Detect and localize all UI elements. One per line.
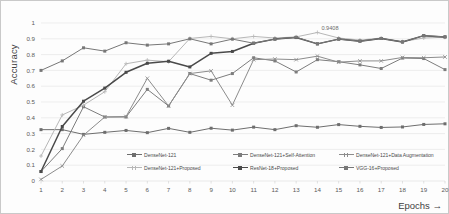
x-tick-label: 18 (399, 186, 406, 193)
x-tick-label: 12 (271, 186, 278, 193)
y-tick-label: 0.7 (26, 67, 35, 74)
y-tick-label: 1 (32, 19, 36, 26)
y-tick-label: 0.4 (26, 114, 35, 121)
x-tick-label: 8 (188, 186, 192, 193)
x-tick-label: 9 (209, 186, 213, 193)
x-tick-label: 10 (229, 186, 236, 193)
legend-item-label: VGG-16+Proposed (356, 165, 399, 171)
legend-item[interactable]: ResNet-18+Proposed (233, 164, 337, 171)
data-label: 0.9408 (321, 25, 338, 31)
y-tick-label: 0.5 (26, 98, 35, 105)
legend-marker-icon (127, 164, 142, 171)
legend-item[interactable]: DenseNet-121+Self-Attention (233, 151, 337, 158)
legend-marker-icon (339, 164, 354, 171)
x-tick-label: 15 (335, 186, 342, 193)
x-tick-label: 4 (103, 186, 107, 193)
legend-marker-icon (233, 151, 248, 158)
x-axis-tick-labels: 1234567891011121314151617181920 (39, 186, 449, 193)
x-tick-label: 5 (124, 186, 128, 193)
legend-item-label: DenseNet-121 (144, 152, 176, 158)
legend-marker-icon (127, 151, 142, 158)
x-tick-label: 20 (442, 186, 449, 193)
legend-marker-icon (339, 151, 354, 158)
x-tick-label: 16 (357, 186, 364, 193)
x-axis-title: Epochs → (398, 200, 442, 211)
y-tick-label: 0.2 (26, 146, 35, 153)
legend-item[interactable]: VGG-16+Proposed (339, 164, 443, 171)
x-tick-label: 1 (39, 186, 43, 193)
y-tick-label: 0 (32, 177, 36, 184)
accuracy-vs-epochs-line-chart: 00.10.20.30.40.50.60.70.80.91 1234567891… (0, 0, 449, 214)
x-tick-label: 13 (293, 186, 300, 193)
y-tick-label: 0.9 (26, 35, 35, 42)
y-tick-label: 0.3 (26, 130, 35, 137)
y-tick-label: 0.8 (26, 51, 35, 58)
legend-item[interactable]: DenseNet-121+Proposed (127, 164, 231, 171)
legend-item-label: DenseNet-121+Data Augmentation (356, 152, 434, 158)
legend-item[interactable]: DenseNet-121 (127, 151, 231, 158)
y-tick-label: 0.6 (26, 82, 35, 89)
legend-item[interactable]: DenseNet-121+Data Augmentation (339, 151, 443, 158)
series-line (39, 30, 447, 158)
chart-plot-area: 00.10.20.30.40.50.60.70.80.91 1234567891… (1, 1, 449, 214)
legend-item-label: DenseNet-121+Self-Attention (250, 152, 315, 158)
y-tick-label: 0.1 (26, 161, 35, 168)
x-tick-label: 3 (82, 186, 86, 193)
x-tick-label: 6 (146, 186, 150, 193)
x-tick-label: 11 (250, 186, 257, 193)
data-label-annotations: 0.9408 (321, 25, 338, 31)
x-tick-label: 17 (378, 186, 385, 193)
x-tick-label: 7 (167, 186, 171, 193)
x-tick-label: 19 (420, 186, 427, 193)
y-axis-tick-labels: 00.10.20.30.40.50.60.70.80.91 (26, 19, 35, 184)
legend-marker-icon (233, 164, 248, 171)
legend-item-label: DenseNet-121+Proposed (144, 165, 201, 171)
legend-item-label: ResNet-18+Proposed (250, 165, 298, 171)
y-axis-title: Accuracy (8, 35, 19, 95)
x-tick-label: 14 (314, 186, 321, 193)
x-tick-label: 2 (61, 186, 65, 193)
chart-legend: DenseNet-121DenseNet-121+Self-AttentionD… (127, 148, 443, 174)
